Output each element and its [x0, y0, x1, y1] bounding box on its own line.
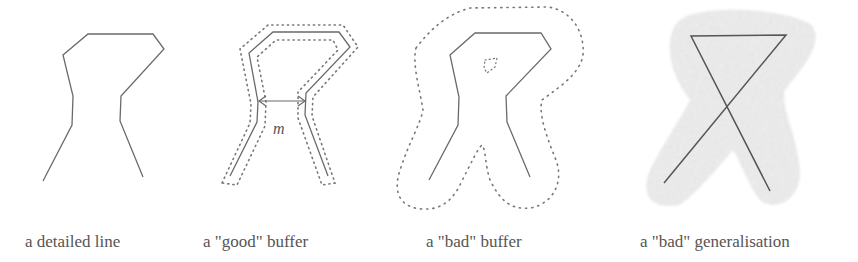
detailed-line	[43, 34, 164, 181]
measure-label-m: m	[273, 120, 285, 138]
bad-buffer-panel	[397, 7, 583, 209]
generalisation-blur-area	[646, 10, 815, 206]
caption-detailed-line: a detailed line	[25, 232, 120, 252]
detailed-line-panel	[43, 34, 164, 181]
bad-generalisation-panel	[646, 10, 815, 206]
good-buffer-line	[230, 32, 350, 176]
bad-buffer-line	[429, 33, 551, 180]
good-buffer-panel	[222, 25, 358, 185]
bad-buffer-hole	[484, 58, 497, 73]
figure-canvas	[0, 0, 858, 262]
good-buffer-outer-dotted	[222, 25, 358, 185]
bad-buffer-dotted-outline	[397, 7, 583, 209]
caption-bad-buffer: a "bad" buffer	[426, 232, 522, 252]
caption-good-buffer: a "good" buffer	[203, 232, 308, 252]
caption-bad-generalisation: a "bad" generalisation	[640, 232, 790, 252]
